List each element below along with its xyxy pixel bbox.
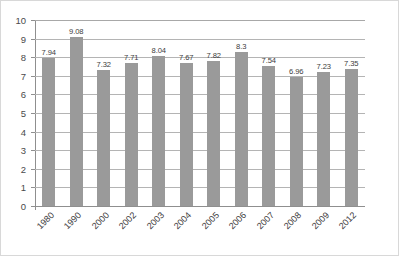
y-axis-tick-label-2: 2 bbox=[2, 163, 26, 174]
x-axis-tick-label-2009: 2009 bbox=[310, 210, 331, 231]
bar-1980[interactable] bbox=[42, 58, 55, 206]
y-axis-tick-label-1: 1 bbox=[2, 182, 26, 193]
x-axis-tick-label-2003: 2003 bbox=[145, 210, 166, 231]
x-axis-tick-label-1980: 1980 bbox=[35, 210, 56, 231]
y-axis-tick-label-6: 6 bbox=[2, 89, 26, 100]
y-axis-tick-label-3: 3 bbox=[2, 145, 26, 156]
bar-2009[interactable] bbox=[317, 72, 330, 206]
bar-value-label-2007: 7.54 bbox=[262, 56, 276, 65]
gridline-0 bbox=[35, 206, 365, 207]
bar-column[interactable]: 9.08 bbox=[70, 20, 83, 206]
x-axis-tick-label-2008: 2008 bbox=[282, 210, 303, 231]
y-axis-tick-label-7: 7 bbox=[2, 70, 26, 81]
bar-column[interactable]: 7.71 bbox=[125, 20, 138, 206]
bar-column[interactable]: 8.3 bbox=[235, 20, 248, 206]
bar-column[interactable]: 8.04 bbox=[152, 20, 165, 206]
bar-value-label-2006: 8.3 bbox=[236, 42, 246, 51]
x-axis-tick-label-2007: 2007 bbox=[255, 210, 276, 231]
bar-2000[interactable] bbox=[97, 70, 110, 206]
bar-value-label-2004: 7.67 bbox=[179, 53, 193, 62]
bar-column[interactable]: 7.32 bbox=[97, 20, 110, 206]
bar-column[interactable]: 7.54 bbox=[262, 20, 275, 206]
x-axis-tick-label-2002: 2002 bbox=[117, 210, 138, 231]
bar-1990[interactable] bbox=[70, 37, 83, 206]
y-axis-tick-label-8: 8 bbox=[2, 52, 26, 63]
x-axis-tick-label-2005: 2005 bbox=[200, 210, 221, 231]
bar-column[interactable]: 7.35 bbox=[345, 20, 358, 206]
bar-value-label-2000: 7.32 bbox=[97, 60, 111, 69]
bar-column[interactable]: 7.94 bbox=[42, 20, 55, 206]
x-axis-tick-label-2000: 2000 bbox=[90, 210, 111, 231]
y-axis-tick-label-4: 4 bbox=[2, 126, 26, 137]
x-axis: 1980199020002002200320042005200620072008… bbox=[35, 210, 365, 255]
bar-value-label-2002: 7.71 bbox=[124, 53, 138, 62]
bar-column[interactable]: 6.96 bbox=[290, 20, 303, 206]
bar-column[interactable]: 7.67 bbox=[180, 20, 193, 206]
bar-value-label-2008: 6.96 bbox=[289, 67, 303, 76]
bar-2012[interactable] bbox=[345, 69, 358, 206]
bar-2007[interactable] bbox=[262, 66, 275, 206]
x-axis-tick-label-2006: 2006 bbox=[227, 210, 248, 231]
bar-chart-figure: 109876543210 7.949.087.327.718.047.677.8… bbox=[0, 0, 399, 256]
bar-value-label-1980: 7.94 bbox=[42, 48, 56, 57]
bar-column[interactable]: 7.23 bbox=[317, 20, 330, 206]
bar-2005[interactable] bbox=[207, 61, 220, 206]
y-axis-tick-label-0: 0 bbox=[2, 201, 26, 212]
bar-value-label-2003: 8.04 bbox=[152, 46, 166, 55]
bar-2006[interactable] bbox=[235, 52, 248, 206]
x-axis-tick-label-2012: 2012 bbox=[337, 210, 358, 231]
bar-2003[interactable] bbox=[152, 56, 165, 206]
bar-2004[interactable] bbox=[180, 63, 193, 206]
x-axis-tick-label-1990: 1990 bbox=[62, 210, 83, 231]
bar-value-label-2012: 7.35 bbox=[344, 59, 358, 68]
y-axis-tick-label-5: 5 bbox=[2, 108, 26, 119]
bar-value-label-1990: 9.08 bbox=[69, 27, 83, 36]
bar-value-label-2009: 7.23 bbox=[317, 62, 331, 71]
bar-2002[interactable] bbox=[125, 63, 138, 206]
bar-value-label-2005: 7.82 bbox=[207, 51, 221, 60]
y-axis-tick-label-10: 10 bbox=[2, 15, 26, 26]
y-axis-tick-label-9: 9 bbox=[2, 33, 26, 44]
bar-column[interactable]: 7.82 bbox=[207, 20, 220, 206]
bar-series: 7.949.087.327.718.047.677.828.37.546.967… bbox=[35, 20, 365, 206]
bar-2008[interactable] bbox=[290, 77, 303, 206]
x-axis-tick-label-2004: 2004 bbox=[172, 210, 193, 231]
